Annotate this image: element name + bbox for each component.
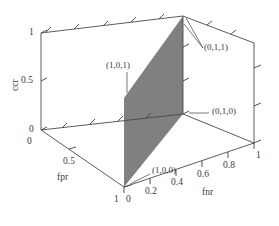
z-axis-title: ccr (11, 79, 21, 91)
fnr-tick-label-02: 0.2 (145, 187, 157, 197)
top-right-tick-2 (231, 30, 236, 34)
top-edge-tick-1 (46, 27, 51, 32)
back-vert-tick-1 (183, 44, 189, 47)
figure-canvas: 1 0.5 0 ccr 0 0.5 1 fpr 0 0.2 0.4 0.6 0.… (0, 0, 279, 226)
top-right-tick-1 (207, 21, 212, 25)
right-vert-tick-3 (254, 140, 261, 143)
shaded-plane-region (124, 16, 183, 187)
vertex-label-011: (0,1,1) (204, 43, 228, 52)
back-vert-tick-2 (183, 78, 189, 81)
back-vert-tick-3 (183, 111, 189, 114)
fnr-tick-label-04: 0.4 (171, 178, 183, 188)
mid-edge-tick-2 (90, 119, 95, 124)
z-tick-05 (41, 78, 47, 81)
vertex-label-100: (1,0,0) (152, 166, 176, 175)
fnr-tick-label-06: 0.6 (197, 170, 209, 180)
z-tick-label-05: 0.5 (21, 76, 33, 86)
leader-line-011 (184, 24, 203, 48)
bottom-left-edge (41, 130, 124, 187)
z-tick-label-0: 0 (29, 125, 34, 135)
right-vert-tick-1 (254, 65, 261, 68)
fnr-tick-label-08: 0.8 (223, 161, 235, 171)
vertex-label-101: (1,0,1) (106, 61, 130, 70)
y-axis-title: fpr (57, 173, 68, 183)
x-axis-title: fnr (202, 188, 213, 198)
top-right-edge (183, 16, 254, 43)
fnr-tick-label-0: 0 (126, 195, 131, 205)
fpr-tick-05 (69, 147, 76, 149)
fnr-tick-label-1: 1 (256, 151, 261, 161)
top-back-edge (41, 16, 183, 33)
right-lower-edge (183, 114, 254, 143)
plot-3d-axes (0, 0, 279, 226)
z-tick-label-1: 1 (29, 28, 34, 38)
vertex-label-010: (0,1,0) (212, 107, 236, 116)
fpr-tick-label-05: 0.5 (63, 157, 75, 167)
right-vert-tick-2 (254, 103, 261, 106)
mid-edge-tick-3 (118, 116, 123, 121)
fpr-tick-label-0: 0 (27, 137, 32, 147)
fpr-tick-label-1: 1 (114, 195, 119, 205)
top-edge-tick-4 (131, 17, 136, 22)
